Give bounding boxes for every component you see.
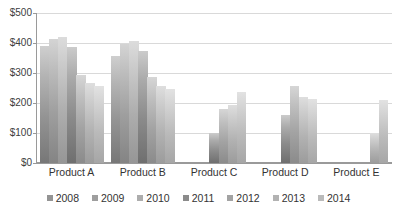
legend-label: 2010 [146, 193, 169, 204]
bar [129, 41, 138, 163]
bar [94, 86, 103, 163]
y-axis-tick-label: $100 [0, 128, 32, 138]
x-axis-category-label: Product D [250, 166, 321, 179]
gridline [36, 163, 392, 164]
bar-group [321, 13, 392, 163]
bar [156, 86, 165, 163]
legend-item[interactable]: 2013 [273, 193, 305, 204]
x-axis-category-label: Product B [107, 166, 178, 179]
bar [299, 97, 308, 163]
bar [209, 133, 218, 163]
bar-chart: $0$100$200$300$400$500 Product AProduct … [0, 0, 397, 208]
legend-label: 2013 [282, 193, 305, 204]
bar [49, 39, 58, 164]
bar-group [36, 13, 107, 163]
legend-item[interactable]: 2014 [318, 193, 350, 204]
legend-label: 2012 [236, 193, 259, 204]
legend-swatch-icon [92, 195, 98, 201]
bar-group [250, 13, 321, 163]
y-axis-tick-label: $300 [0, 68, 32, 78]
y-axis-tick-label: $400 [0, 38, 32, 48]
bar [76, 75, 85, 164]
bar [111, 56, 120, 163]
bar [237, 92, 246, 163]
legend-label: 2009 [101, 193, 124, 204]
legend-swatch-icon [47, 195, 53, 201]
legend-swatch-icon [137, 195, 143, 201]
legend: 2008200920102011201220132014 [0, 190, 397, 206]
x-axis-labels: Product AProduct BProduct CProduct DProd… [36, 166, 392, 182]
bar [165, 89, 174, 163]
legend-item[interactable]: 2010 [137, 193, 169, 204]
bar [120, 44, 129, 163]
legend-swatch-icon [227, 195, 233, 201]
legend-item[interactable]: 2008 [47, 193, 79, 204]
bar [40, 46, 49, 163]
legend-label: 2014 [327, 193, 350, 204]
plot-area [36, 13, 392, 163]
legend-swatch-icon [273, 195, 279, 201]
bar-group [107, 13, 178, 163]
bar-group [178, 13, 249, 163]
bar [85, 83, 94, 163]
y-axis-tick-label: $200 [0, 98, 32, 108]
legend-item[interactable]: 2012 [227, 193, 259, 204]
legend-swatch-icon [318, 195, 324, 201]
x-axis-category-label: Product E [321, 166, 392, 179]
bar [147, 77, 156, 163]
y-axis-tick-label: $500 [0, 8, 32, 18]
legend-label: 2008 [56, 193, 79, 204]
legend-label: 2011 [192, 193, 215, 204]
y-axis: $0$100$200$300$400$500 [0, 0, 36, 208]
bar [308, 99, 317, 163]
x-axis-category-label: Product A [36, 166, 107, 179]
bar [219, 109, 228, 163]
legend-swatch-icon [183, 195, 189, 201]
bar [281, 115, 290, 163]
y-axis-tick-label: $0 [0, 158, 32, 168]
bar [138, 51, 147, 163]
bar [370, 133, 379, 163]
bar [67, 47, 76, 163]
bar [379, 100, 388, 163]
bar [290, 86, 299, 163]
bar [228, 105, 237, 164]
bar [58, 37, 67, 163]
x-axis-category-label: Product C [178, 166, 249, 179]
legend-item[interactable]: 2009 [92, 193, 124, 204]
legend-item[interactable]: 2011 [183, 193, 215, 204]
